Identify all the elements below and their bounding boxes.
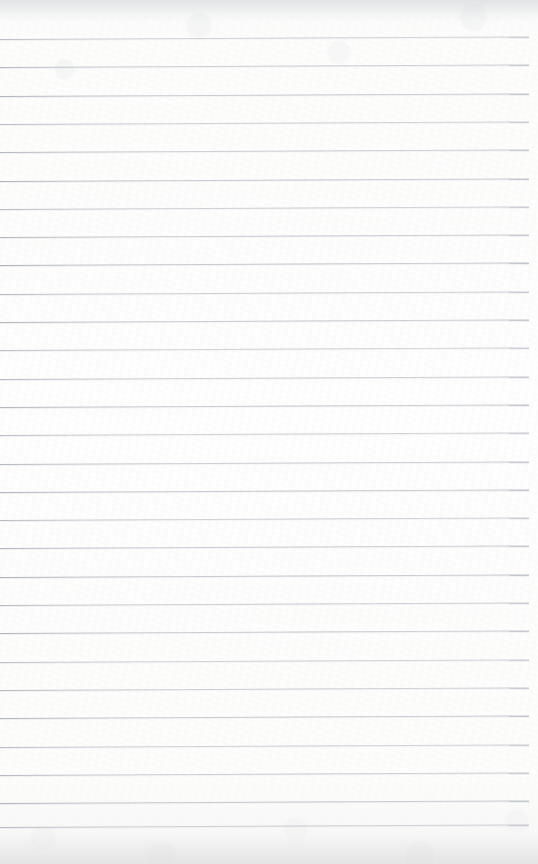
ruled-line xyxy=(0,603,529,606)
ruled-line xyxy=(0,716,529,719)
ruled-line xyxy=(0,574,529,577)
ruled-line xyxy=(0,772,529,775)
ruled-line xyxy=(0,178,529,181)
ruled-line xyxy=(0,687,529,690)
ruled-line xyxy=(0,291,529,294)
ruled-line xyxy=(0,461,529,464)
ruled-line xyxy=(0,404,529,407)
ruled-line xyxy=(0,659,529,662)
ruled-line xyxy=(0,235,529,238)
ruled-line xyxy=(0,206,529,209)
ruled-line xyxy=(0,744,529,747)
ruled-lines-layer xyxy=(0,0,538,864)
ruled-line xyxy=(0,376,529,379)
ruled-line xyxy=(0,65,529,68)
ruled-line xyxy=(0,121,529,124)
ruled-line xyxy=(0,320,529,323)
ruled-line xyxy=(0,631,529,634)
ruled-line xyxy=(0,489,529,492)
ruled-line xyxy=(0,37,529,40)
ruled-line xyxy=(0,150,529,153)
ruled-line xyxy=(0,433,529,436)
ruled-line xyxy=(0,518,529,521)
ruled-line xyxy=(0,801,529,804)
ruled-line xyxy=(0,348,529,351)
ruled-line xyxy=(0,263,529,266)
ruled-paper-page xyxy=(0,0,538,864)
ruled-line xyxy=(0,546,529,549)
ruled-line xyxy=(0,93,529,96)
ruled-line xyxy=(0,825,529,828)
